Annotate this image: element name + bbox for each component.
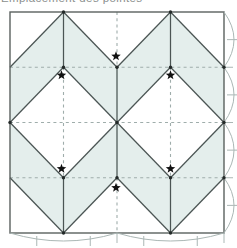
star-marker [166, 70, 176, 79]
shaded-region [117, 123, 171, 234]
crease-pattern-diagram [0, 0, 237, 248]
vertex-dot [62, 66, 65, 69]
vertex-dot [169, 66, 172, 69]
vertex-dot [62, 231, 65, 234]
shaded-region [64, 12, 118, 123]
vertex-dot [169, 176, 172, 179]
vertex-dot [169, 10, 172, 13]
vertex-dot [222, 66, 225, 69]
star-marker [111, 183, 121, 192]
vertex-dot [62, 176, 65, 179]
vertex-dot [115, 121, 118, 124]
star-marker [111, 51, 121, 60]
shaded-region [64, 123, 118, 234]
vertex-dot [115, 66, 118, 69]
vertex-dot [115, 176, 118, 179]
star-marker [166, 164, 176, 173]
shaded-region [117, 12, 171, 123]
vertex-dot [8, 121, 11, 124]
diagram-page: Emplacement des pointes [0, 0, 237, 248]
vertex-dot [62, 10, 65, 13]
vertex-dot [222, 176, 225, 179]
vertex-dot [169, 231, 172, 234]
vertex-dot [222, 121, 225, 124]
